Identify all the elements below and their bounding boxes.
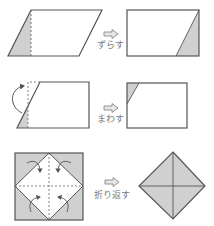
dashed-outline [28,82,40,128]
step-label-shift: ずらす [97,38,124,51]
rotate-arrow-icon [12,86,24,113]
trapezoid-figure [12,82,89,128]
diamond-figure [139,152,205,219]
rectangle-figure [127,83,187,128]
rectangle-figure [127,10,199,56]
parallelogram-figure [8,10,102,56]
square-fold-figure [15,153,83,220]
step-label-rotate: まわす [97,112,124,125]
right-arrow-icon [105,178,119,187]
step-label-fold-back: 折り返す [94,188,130,201]
